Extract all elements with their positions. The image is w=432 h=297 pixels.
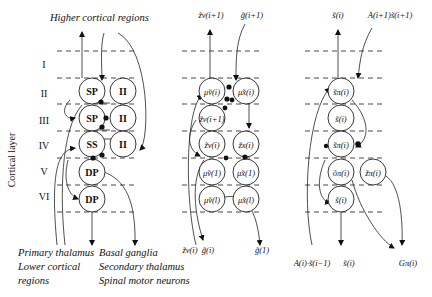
diagram-canvas: Cortical layer I II III IV V VI Higher c… <box>0 0 432 297</box>
node-label: SP <box>86 113 98 124</box>
node-label: z̃v(i) <box>203 140 219 150</box>
node-label: SS <box>86 139 98 150</box>
node-label: s̃(i) <box>335 195 347 205</box>
node-label: s̃π(i) <box>333 140 349 150</box>
node-label: DP <box>85 194 98 205</box>
label-bottom-left-b: g̃(i) <box>202 245 214 255</box>
layer-label-vi: VI <box>39 191 50 202</box>
bottom-left-line-2: Lower cortical <box>17 261 80 272</box>
layer-label-v: V <box>40 166 48 177</box>
label-bottom-right: g̃(1) <box>255 245 269 255</box>
bottom-left-line-1: Primary thalamus <box>17 247 94 258</box>
bottom-right-line-3: Spinal motor neurons <box>99 275 190 286</box>
layer-label-i: I <box>42 59 45 70</box>
bottom-right-line-1: Basal ganglia <box>99 247 158 258</box>
top-label: Higher cortical regions <box>49 12 149 23</box>
node-label: õπ(i) <box>333 168 350 178</box>
label-bottom-left: A(i)·s̃(i−1) <box>293 258 331 268</box>
node-label: μ̃v(i) <box>203 87 220 97</box>
node-label: SP <box>86 86 98 97</box>
layer-label-ii: II <box>41 88 48 99</box>
label-top-right: g̃(i+1) <box>241 10 263 20</box>
panel-anatomy: SP II SP II SS II DP DP <box>54 32 145 245</box>
node-label: s̃π(i) <box>333 87 349 97</box>
layer-label-iv: IV <box>39 140 50 151</box>
node-label: μ̃x(i) <box>237 87 254 97</box>
label-bottom-right: Gπ(i) <box>399 258 418 268</box>
node-label: II <box>119 86 127 97</box>
label-bottom-left-a: z̃v(i) <box>181 245 197 255</box>
node-label: II <box>119 139 127 150</box>
node-label: μ̃v(l) <box>203 195 220 205</box>
label-bottom-mid: s̃(i) <box>343 258 355 268</box>
bottom-right-line-2: Secondary thalamus <box>99 261 184 272</box>
node-label: II <box>119 113 127 124</box>
label-top-left: z̃v(i+1) <box>197 10 223 20</box>
node-label: z̃v(i+1) <box>198 114 224 124</box>
node-label: z̃x(i) <box>237 140 253 150</box>
node-label: μ̃v(1) <box>202 168 221 178</box>
axis-label: Cortical layer <box>6 132 17 187</box>
node-label: DP <box>85 167 98 178</box>
panel-tensor: s̃(i) A(i+1)s̃(i+1) s̃π(i) s̃(i) s̃π(i) … <box>293 10 418 268</box>
bottom-left-line-3: regions <box>18 275 49 286</box>
node-label: μ̃x(1) <box>236 168 255 178</box>
node-label: s̃(i) <box>335 114 347 124</box>
label-top-right: A(i+1)s̃(i+1) <box>367 10 413 20</box>
layer-label-iii: III <box>39 115 49 126</box>
node-label: μ̃x(l) <box>237 195 254 205</box>
panel-predictive-coding: z̃v(i+1) g̃(i+1) μ̃v(i) μ̃x(i) z̃v(i+1) … <box>181 10 269 255</box>
label-top-left: s̃(i) <box>332 10 344 20</box>
node-label: z̃π(i) <box>364 168 381 178</box>
